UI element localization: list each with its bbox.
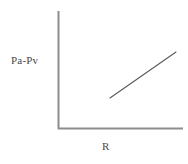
x-axis-label: R xyxy=(102,140,110,152)
data-trend-line xyxy=(110,52,176,98)
plot-area xyxy=(0,0,188,164)
chart-figure: Pa-Pv R xyxy=(0,0,188,164)
y-axis-label: Pa-Pv xyxy=(11,54,38,66)
